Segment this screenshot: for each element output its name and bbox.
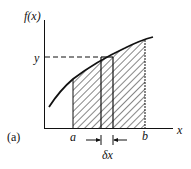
y-axis-label: f(x)	[24, 10, 41, 22]
integral-area-diagram: f(x) y x (a) a b δx	[0, 0, 191, 169]
lower-bound-label: a	[70, 131, 76, 143]
delta-x-arrows	[86, 135, 127, 145]
y-value-label: y	[34, 52, 39, 64]
strip-width-label: δx	[102, 149, 113, 161]
x-axis-label: x	[177, 124, 182, 136]
upper-bound-label: b	[142, 130, 148, 142]
diagram-graphics	[0, 0, 191, 169]
panel-label: (a)	[7, 131, 20, 143]
shaded-area	[73, 30, 145, 128]
